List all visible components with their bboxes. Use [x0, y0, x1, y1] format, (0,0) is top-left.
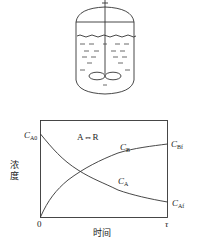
x-axis-label: 时间 — [93, 229, 111, 238]
x-axis-end-tick: τ — [165, 220, 168, 229]
concentration-time-chart — [0, 0, 200, 251]
label-ca0: CA0 — [24, 131, 37, 141]
label-caf: CAf — [172, 199, 184, 209]
label-ca: CA — [118, 177, 128, 187]
x-axis-start-tick: 0 — [37, 220, 42, 229]
label-cbf: CBf — [171, 140, 183, 150]
reaction-label: A⇔R — [77, 133, 99, 142]
y-axis-label: 浓度 — [8, 160, 20, 182]
reactor-figure: CA0 A⇔R CBf CB CA CAf 浓度 0 τ 时间 — [0, 0, 200, 251]
curve-ca — [41, 134, 168, 202]
label-cb: CB — [120, 143, 130, 153]
chart-frame — [41, 121, 168, 218]
